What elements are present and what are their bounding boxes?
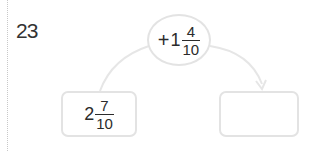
right-arc-arrow (210, 46, 262, 84)
operation-whole: 1 (170, 30, 180, 51)
operation-numerator: 4 (186, 24, 196, 40)
answer-box[interactable] (219, 91, 299, 137)
start-denominator: 10 (95, 115, 114, 131)
operation-denominator: 10 (182, 41, 201, 57)
left-arc (100, 46, 149, 91)
start-fraction: 7 10 (95, 98, 114, 131)
start-mixed-number: 2 7 10 (84, 98, 114, 131)
operator: + (158, 29, 170, 52)
start-numerator: 7 (99, 98, 109, 114)
start-value-box: 2 7 10 (61, 91, 137, 137)
operation-expression: + 1 4 10 (158, 24, 200, 57)
operation-fraction: 4 10 (182, 24, 201, 57)
start-whole: 2 (84, 104, 94, 125)
operation-oval: + 1 4 10 (147, 14, 211, 66)
